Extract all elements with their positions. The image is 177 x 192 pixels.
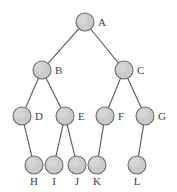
edge-layer <box>24 29 143 157</box>
node-highlight-d <box>15 109 25 119</box>
node-label-c: C <box>137 65 144 76</box>
node-highlight-g <box>138 109 148 119</box>
tree-edge-b-e <box>46 78 61 108</box>
tree-canvas <box>0 0 177 192</box>
tree-node-b[interactable] <box>33 61 51 79</box>
tree-diagram-figure: ABCDEFGHIJKL <box>0 0 177 192</box>
tree-node-f[interactable] <box>96 107 114 125</box>
node-label-i: I <box>52 176 56 187</box>
tree-edge-e-i <box>56 125 63 156</box>
node-highlight-b <box>35 63 45 73</box>
node-label-l: L <box>134 176 141 187</box>
node-label-f: F <box>118 111 124 122</box>
node-label-h: H <box>30 176 38 187</box>
node-highlight-k <box>90 158 100 168</box>
tree-edge-b-d <box>26 78 39 108</box>
node-highlight-i <box>47 158 57 168</box>
tree-edge-d-h <box>24 125 32 157</box>
tree-node-h[interactable] <box>25 156 43 174</box>
tree-node-j[interactable] <box>68 156 86 174</box>
node-highlight-l <box>130 158 140 168</box>
tree-edge-c-f <box>108 78 120 107</box>
tree-node-c[interactable] <box>115 61 133 79</box>
tree-edge-c-g <box>128 78 142 108</box>
tree-edge-f-k <box>98 125 103 156</box>
tree-edge-a-b <box>48 29 79 64</box>
tree-node-d[interactable] <box>13 107 31 125</box>
node-label-a: A <box>98 17 106 28</box>
node-highlight-f <box>98 109 108 119</box>
tree-node-k[interactable] <box>88 156 106 174</box>
node-highlight-h <box>27 158 37 168</box>
node-label-g: G <box>158 111 166 122</box>
tree-edge-g-l <box>138 125 143 156</box>
tree-edge-a-c <box>91 29 119 63</box>
node-highlight-a <box>78 15 88 25</box>
tree-edge-e-j <box>67 125 75 157</box>
node-highlight-c <box>117 63 127 73</box>
node-layer <box>13 13 154 174</box>
node-label-k: K <box>93 176 101 187</box>
tree-node-e[interactable] <box>56 107 74 125</box>
node-label-e: E <box>78 111 85 122</box>
tree-node-l[interactable] <box>128 156 146 174</box>
node-highlight-j <box>70 158 80 168</box>
tree-node-a[interactable] <box>76 13 94 31</box>
tree-node-i[interactable] <box>45 156 63 174</box>
node-label-d: D <box>35 111 43 122</box>
node-label-j: J <box>75 176 79 187</box>
node-highlight-e <box>58 109 68 119</box>
tree-node-g[interactable] <box>136 107 154 125</box>
node-label-b: B <box>55 65 62 76</box>
